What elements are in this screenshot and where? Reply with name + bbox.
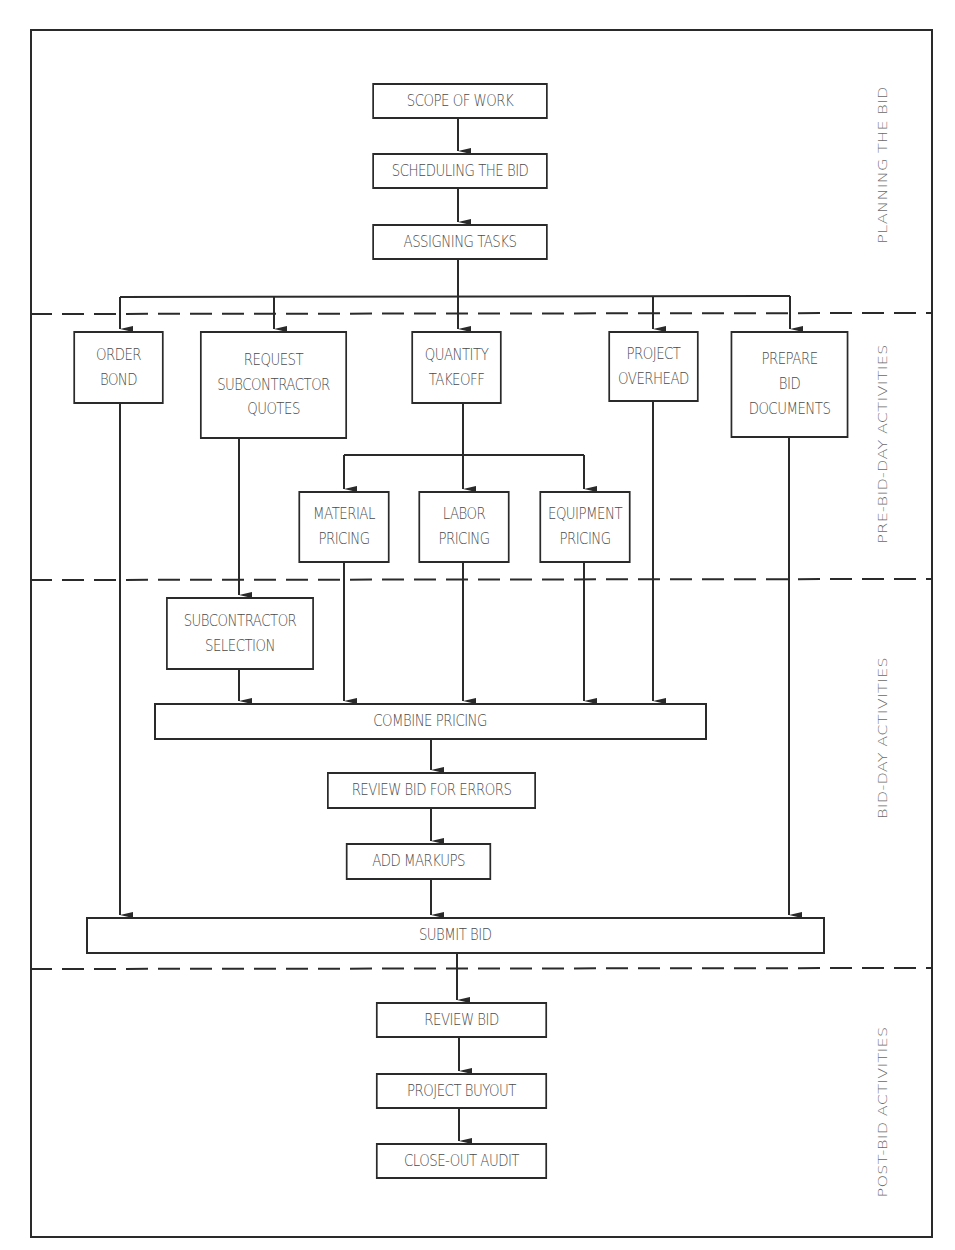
- phase-label-pre-bid-day: PRE-BID-DAY ACTIVITIES: [875, 324, 895, 564]
- node-label: EQUIPMENT PRICING: [548, 502, 622, 552]
- phase-divider-3: [30, 968, 931, 969]
- node-add-markups: ADD MARKUPS: [346, 843, 491, 880]
- phase-label-planning: PLANNING THE BID: [875, 85, 895, 245]
- node-label: SCOPE OF WORK: [407, 89, 513, 114]
- node-label: SUBCONTRACTOR SELECTION: [184, 609, 297, 659]
- node-label: LABOR PRICING: [438, 502, 489, 552]
- node-request-subcontractor-quotes: REQUEST SUBCONTRACTOR QUOTES: [200, 331, 347, 439]
- node-label: COMBINE PRICING: [374, 709, 488, 734]
- node-label: SUBMIT BID: [419, 923, 492, 948]
- phase-divider-1: [30, 313, 931, 314]
- node-label: REVIEW BID FOR ERRORS: [352, 778, 512, 803]
- node-label: PROJECT OVERHEAD: [618, 342, 689, 392]
- phase-label-bid-day: BID-DAY ACTIVITIES: [875, 638, 895, 838]
- node-subcontractor-selection: SUBCONTRACTOR SELECTION: [166, 597, 314, 670]
- node-equipment-pricing: EQUIPMENT PRICING: [539, 491, 630, 563]
- node-label: PREPARE BID DOCUMENTS: [749, 347, 831, 421]
- node-combine-pricing: COMBINE PRICING: [154, 703, 707, 740]
- node-quantity-takeoff: QUANTITY TAKEOFF: [411, 331, 501, 404]
- node-project-overhead: PROJECT OVERHEAD: [608, 331, 698, 402]
- node-assigning-tasks: ASSIGNING TASKS: [372, 224, 547, 260]
- node-label: REQUEST SUBCONTRACTOR QUOTES: [217, 348, 330, 422]
- node-labor-pricing: LABOR PRICING: [418, 491, 509, 563]
- node-review-bid: REVIEW BID: [376, 1002, 547, 1038]
- node-scope-of-work: SCOPE OF WORK: [372, 83, 547, 119]
- node-label: QUANTITY TAKEOFF: [425, 343, 489, 393]
- flowchart-canvas: SCOPE OF WORK SCHEDULING THE BID ASSIGNI…: [0, 0, 955, 1250]
- node-project-buyout: PROJECT BUYOUT: [376, 1073, 547, 1109]
- node-prepare-bid-documents: PREPARE BID DOCUMENTS: [731, 331, 849, 438]
- node-label: ORDER BOND: [96, 343, 141, 393]
- node-label: PROJECT BUYOUT: [407, 1079, 516, 1104]
- node-submit-bid: SUBMIT BID: [86, 917, 825, 954]
- phase-label-post-bid: POST-BID ACTIVITIES: [875, 1002, 895, 1222]
- node-label: REVIEW BID: [424, 1008, 498, 1033]
- node-label: ASSIGNING TASKS: [404, 230, 517, 255]
- node-close-out-audit: CLOSE-OUT AUDIT: [376, 1143, 547, 1179]
- node-review-bid-for-errors: REVIEW BID FOR ERRORS: [327, 772, 536, 809]
- node-material-pricing: MATERIAL PRICING: [298, 491, 389, 563]
- node-label: SCHEDULING THE BID: [392, 159, 529, 184]
- node-label: MATERIAL PRICING: [313, 502, 375, 552]
- node-label: ADD MARKUPS: [372, 849, 465, 874]
- node-label: CLOSE-OUT AUDIT: [404, 1149, 519, 1174]
- node-order-bond: ORDER BOND: [73, 331, 163, 404]
- phase-divider-2: [30, 579, 931, 580]
- node-scheduling-the-bid: SCHEDULING THE BID: [372, 153, 547, 189]
